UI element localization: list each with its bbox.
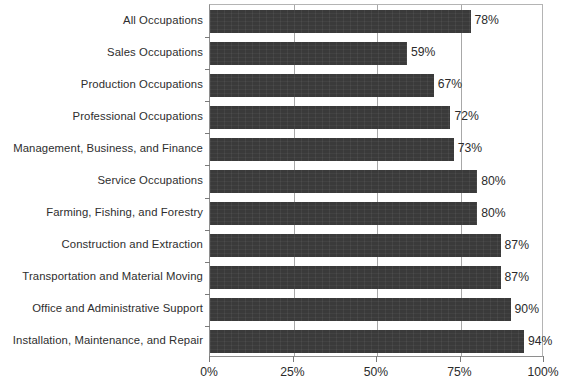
y-axis-tick	[205, 294, 210, 295]
y-axis-tick	[205, 37, 210, 38]
category-label: All Occupations	[0, 14, 203, 27]
bar-chart: All OccupationsSales OccupationsProducti…	[0, 0, 567, 392]
x-axis-tick-label: 0%	[200, 365, 218, 379]
bar-value-label: 87%	[505, 270, 529, 284]
bar	[210, 42, 407, 65]
bar	[210, 10, 471, 33]
bar	[210, 266, 501, 289]
category-label: Production Occupations	[0, 78, 203, 91]
bar-value-label: 94%	[528, 334, 552, 348]
y-axis-tick	[205, 165, 210, 166]
y-axis-tick	[205, 133, 210, 134]
category-label: Office and Administrative Support	[0, 302, 203, 315]
bar-value-label: 78%	[475, 13, 499, 27]
x-axis-tick-label: 50%	[364, 365, 388, 379]
bar	[210, 138, 454, 161]
y-axis-tick	[205, 101, 210, 102]
bar-value-label: 80%	[481, 206, 505, 220]
x-axis-tick	[543, 356, 544, 362]
bar-value-label: 73%	[458, 141, 482, 155]
bar	[210, 170, 477, 193]
category-label: Sales Occupations	[0, 46, 203, 59]
x-axis: 0%25%50%75%100%	[209, 356, 544, 390]
y-axis-tick	[205, 69, 210, 70]
x-axis-tick	[293, 356, 294, 362]
bar	[210, 74, 434, 97]
x-axis-tick-label: 25%	[280, 365, 304, 379]
bar	[210, 202, 477, 225]
y-axis-tick	[205, 198, 210, 199]
category-label: Service Occupations	[0, 174, 203, 187]
bar-value-label: 59%	[411, 45, 435, 59]
bar-value-label: 87%	[505, 238, 529, 252]
bar-value-label: 90%	[515, 302, 539, 316]
category-label: Management, Business, and Finance	[0, 142, 203, 155]
category-axis-labels: All OccupationsSales OccupationsProducti…	[0, 4, 203, 357]
bar	[210, 330, 524, 353]
category-label: Transportation and Material Moving	[0, 270, 203, 283]
x-axis-tick-label: 100%	[527, 365, 558, 379]
bar	[210, 234, 501, 257]
y-axis-tick	[205, 326, 210, 327]
x-axis-tick-label: 75%	[447, 365, 471, 379]
category-label: Installation, Maintenance, and Repair	[0, 334, 203, 347]
bar-value-label: 80%	[481, 174, 505, 188]
x-axis-tick	[460, 356, 461, 362]
bar-value-label: 67%	[438, 77, 462, 91]
bar	[210, 106, 450, 129]
bar	[210, 298, 511, 321]
bar-value-label: 72%	[454, 109, 478, 123]
category-label: Professional Occupations	[0, 110, 203, 123]
y-axis-tick	[205, 230, 210, 231]
x-axis-tick	[376, 356, 377, 362]
category-label: Farming, Fishing, and Forestry	[0, 206, 203, 219]
category-label: Construction and Extraction	[0, 238, 203, 251]
x-axis-tick	[209, 356, 210, 362]
y-axis-tick	[205, 262, 210, 263]
